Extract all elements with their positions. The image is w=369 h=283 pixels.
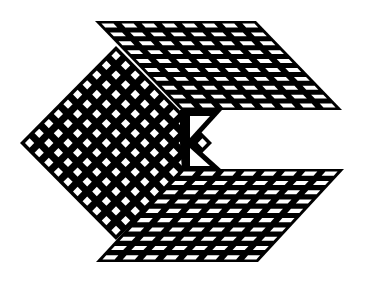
grid-c-logo: [0, 0, 369, 283]
